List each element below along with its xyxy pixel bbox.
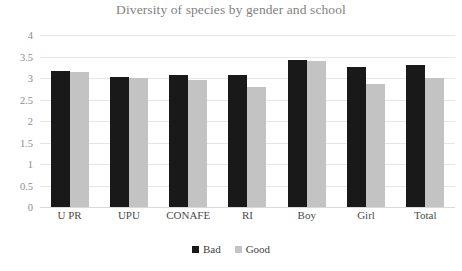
y-axis-tick-label: 4	[0, 30, 33, 41]
bar-group	[99, 35, 158, 207]
x-axis-tick-labels: U PRUPUCONAFERIBoyGirlTotal	[40, 209, 455, 221]
bar-bad[interactable]	[288, 60, 307, 207]
y-axis-tick-label: 3.5	[0, 51, 33, 62]
y-axis-tick-label: 0	[0, 202, 33, 213]
legend-swatch-icon	[235, 246, 242, 253]
x-axis-tick-label: Boy	[277, 209, 336, 221]
bar-good[interactable]	[307, 61, 326, 207]
bar-group	[277, 35, 336, 207]
bar-bad[interactable]	[228, 75, 247, 207]
y-axis-tick-label: 0.5	[0, 180, 33, 191]
bar-group	[218, 35, 277, 207]
y-axis-tick-label: 3	[0, 73, 33, 84]
bar-good[interactable]	[70, 72, 89, 207]
y-axis-tick-label: 1.5	[0, 137, 33, 148]
bar-bad[interactable]	[110, 77, 129, 207]
bar-bad[interactable]	[169, 75, 188, 207]
chart-title: Diversity of species by gender and schoo…	[0, 2, 462, 18]
x-axis-tick-label: CONAFE	[159, 209, 218, 221]
bar-chart: Diversity of species by gender and schoo…	[0, 0, 462, 271]
bar-bad[interactable]	[406, 65, 425, 207]
bar-good[interactable]	[188, 80, 207, 207]
legend-item[interactable]: Good	[235, 243, 270, 255]
y-axis-tick-label: 2.5	[0, 94, 33, 105]
x-axis-tick-label: RI	[218, 209, 277, 221]
legend-label: Good	[246, 243, 270, 255]
bar-good[interactable]	[425, 78, 444, 207]
x-axis-tick-label: Girl	[336, 209, 395, 221]
legend-label: Bad	[203, 243, 221, 255]
bar-good[interactable]	[247, 87, 266, 207]
x-axis-tick-label: UPU	[99, 209, 158, 221]
bar-bad[interactable]	[347, 67, 366, 207]
legend-swatch-icon	[192, 246, 199, 253]
gridline	[40, 207, 455, 208]
bar-group	[336, 35, 395, 207]
x-axis-tick-label: Total	[396, 209, 455, 221]
bar-good[interactable]	[366, 84, 385, 207]
legend-item[interactable]: Bad	[192, 243, 221, 255]
y-axis-tick-label: 2	[0, 116, 33, 127]
x-axis-tick-label: U PR	[40, 209, 99, 221]
chart-legend: BadGood	[0, 243, 462, 255]
y-axis-tick-label: 1	[0, 159, 33, 170]
bar-group	[396, 35, 455, 207]
bar-bad[interactable]	[51, 71, 70, 207]
bar-groups	[40, 35, 455, 207]
bar-group	[159, 35, 218, 207]
bar-good[interactable]	[129, 78, 148, 207]
bar-group	[40, 35, 99, 207]
